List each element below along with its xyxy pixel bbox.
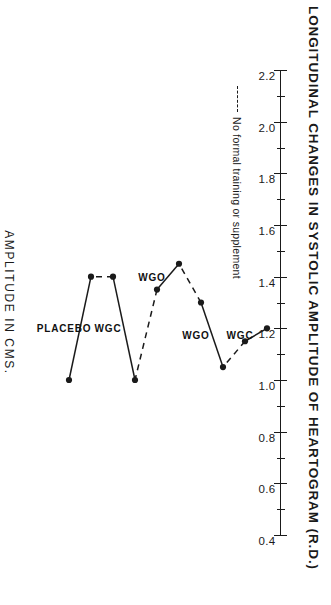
plot-area: 2.22.01.81.61.41.21.00.80.60.4 — [49, 70, 281, 535]
series-segment — [179, 264, 201, 303]
y-axis-minor-tick — [277, 199, 285, 200]
y-axis-tick-label: 1.6 — [258, 225, 275, 237]
y-axis-tick — [274, 70, 287, 71]
y-axis-tick — [274, 277, 287, 278]
y-axis-minor-tick — [277, 354, 285, 355]
data-point — [198, 299, 204, 305]
figure-title: LONGITUDINAL CHANGES IN SYSTOLIC AMPLITU… — [306, 6, 321, 570]
y-axis-tick-label: 1.4 — [258, 277, 275, 289]
y-axis-title: AMPLITUDE IN CMS. — [2, 230, 16, 375]
y-axis-tick-label: 2.0 — [258, 122, 275, 134]
y-axis-minor-tick — [277, 148, 285, 149]
y-axis-tick-label: 2.2 — [258, 70, 275, 82]
data-point — [110, 274, 116, 280]
y-axis-minor-tick — [277, 509, 285, 510]
data-point — [88, 274, 94, 280]
figure-canvas: LONGITUDINAL CHANGES IN SYSTOLIC AMPLITU… — [0, 0, 331, 605]
series-annotation: PLACEBO — [37, 323, 92, 334]
y-axis-minor-tick — [277, 251, 285, 252]
y-axis-tick-label: 1.2 — [258, 328, 275, 340]
data-point — [154, 286, 160, 292]
series-annotation: WGC — [95, 323, 122, 334]
y-axis-minor-tick — [277, 96, 285, 97]
data-point — [220, 364, 226, 370]
series-line — [49, 70, 281, 535]
series-segment — [223, 341, 245, 367]
y-axis-tick — [274, 535, 287, 536]
series-annotation: WGO — [182, 329, 209, 340]
series-annotation: WGO — [138, 271, 165, 282]
y-axis-tick — [274, 173, 287, 174]
y-axis-tick-label: 0.6 — [258, 483, 275, 495]
y-axis-minor-tick — [277, 406, 285, 407]
y-axis-tick — [274, 225, 287, 226]
y-axis-tick-label: 1.0 — [258, 380, 275, 392]
y-axis-tick-label: 0.8 — [258, 432, 275, 444]
y-axis-tick — [274, 483, 287, 484]
data-point — [176, 261, 182, 267]
y-axis-tick — [274, 432, 287, 433]
data-point — [66, 377, 72, 383]
series-segment — [135, 290, 157, 380]
y-axis-tick-label: 0.4 — [258, 535, 275, 547]
data-point — [132, 377, 138, 383]
y-axis-tick — [274, 328, 287, 329]
y-axis-tick-label: 1.8 — [258, 173, 275, 185]
y-axis-minor-tick — [277, 458, 285, 459]
y-axis-tick — [274, 380, 287, 381]
y-axis-minor-tick — [277, 303, 285, 304]
y-axis-tick — [274, 122, 287, 123]
series-annotation: WGC — [227, 329, 254, 340]
